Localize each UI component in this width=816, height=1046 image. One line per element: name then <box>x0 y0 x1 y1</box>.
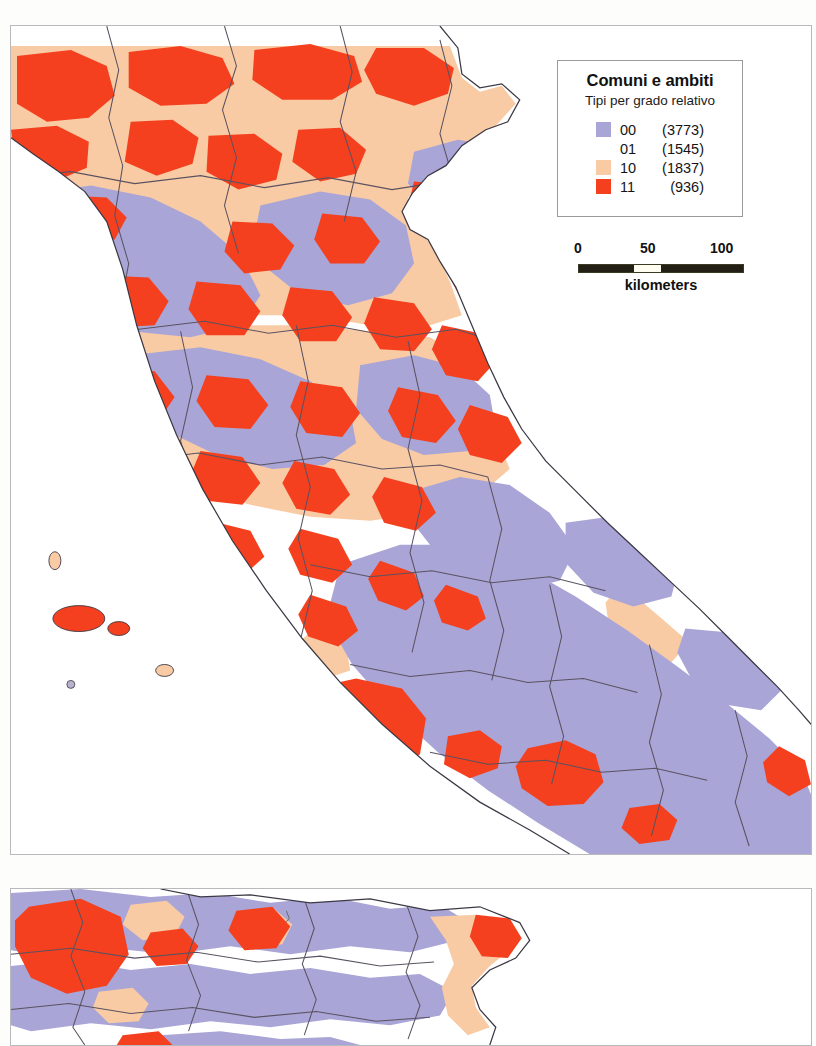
legend-row-11: 11 (936) <box>596 177 742 196</box>
legend-swatch-11 <box>596 179 611 194</box>
legend-row-01: 01 (1545) <box>596 139 742 158</box>
legend-row-10: 10 (1837) <box>596 158 742 177</box>
legend-count-01: (1545) <box>646 141 704 157</box>
inset-map-panel <box>10 888 812 1046</box>
legend-title: Comuni e ambiti <box>558 71 742 90</box>
legend-count-10: (1837) <box>646 160 704 176</box>
scale-bar-graphic <box>578 264 744 273</box>
legend-swatch-10 <box>596 160 611 175</box>
legend-code-11: 11 <box>620 179 646 195</box>
map-legend: Comuni e ambiti Tipi per grado relativo … <box>557 60 743 217</box>
legend-count-11: (936) <box>646 179 704 195</box>
legend-swatch-00 <box>596 122 611 137</box>
scale-bar: 0 50 100 kilometers <box>570 240 750 293</box>
scale-tick-labels: 0 50 100 <box>570 240 750 258</box>
map-figure: Comuni e ambiti Tipi per grado relativo … <box>0 0 816 1046</box>
scale-tick-50: 50 <box>640 240 656 256</box>
scale-segment-2 <box>661 265 743 272</box>
legend-entries: 00 (3773) 01 (1545) 10 (1837) 11 (936) <box>558 120 742 196</box>
legend-subtitle: Tipi per grado relativo <box>558 93 742 108</box>
legend-count-00: (3773) <box>646 122 704 138</box>
legend-code-00: 00 <box>620 122 646 138</box>
inset-map-svg <box>11 889 811 1045</box>
scale-tick-100: 100 <box>710 240 733 256</box>
scale-tick-0: 0 <box>574 240 582 256</box>
scale-segment-1 <box>579 265 634 272</box>
legend-swatch-01 <box>596 141 611 156</box>
legend-row-00: 00 (3773) <box>596 120 742 139</box>
legend-code-10: 10 <box>620 160 646 176</box>
legend-code-01: 01 <box>620 141 646 157</box>
scale-caption: kilometers <box>578 277 744 293</box>
